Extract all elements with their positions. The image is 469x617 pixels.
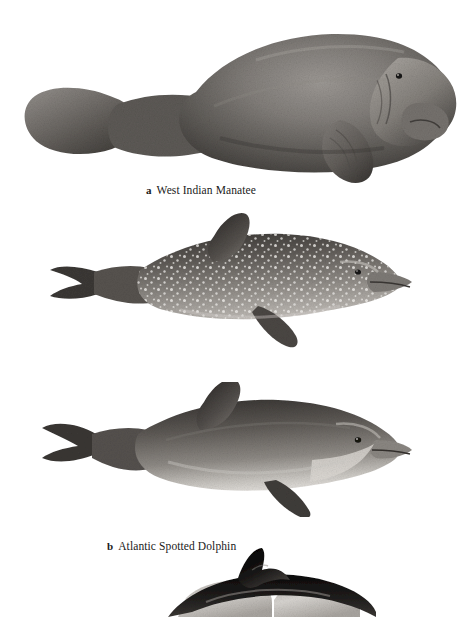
bottlenose-body	[135, 400, 400, 491]
spotted-dolphin-artwork	[0, 210, 469, 355]
figure-bottle-nosed-dolphin: cBottle-nosed Dolphin	[0, 382, 469, 517]
bottlenose-dolphin-artwork	[0, 382, 469, 517]
spotted-dolphin-flukes	[50, 266, 98, 298]
figure-label-a: a	[146, 184, 152, 196]
spotted-dolphin-spots	[137, 234, 400, 319]
bottlenose-eye	[355, 437, 361, 443]
manatee-eye	[396, 73, 402, 78]
figure-common-dolphin-cropped	[0, 540, 469, 617]
figure-atlantic-spotted-dolphin: bAtlantic Spotted Dolphin	[0, 210, 469, 355]
bottlenose-flukes	[42, 424, 96, 462]
illustration-plate: aWest Indian Manatee	[0, 0, 469, 617]
figure-west-indian-manatee: aWest Indian Manatee	[0, 0, 469, 200]
bottlenose-beak	[370, 440, 412, 459]
spotted-dolphin-eye	[355, 269, 361, 274]
manatee-artwork	[0, 0, 469, 200]
common-dolphin-artwork	[0, 540, 469, 617]
figure-caption-a: aWest Indian Manatee	[146, 184, 256, 196]
figure-name-a: West Indian Manatee	[157, 184, 256, 196]
